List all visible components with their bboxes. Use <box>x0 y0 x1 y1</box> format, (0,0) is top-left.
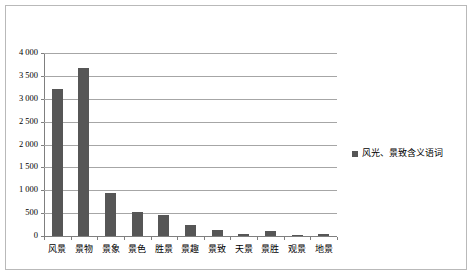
x-axis-tick-label: 景色 <box>124 243 151 255</box>
x-axis-tick-label: 天景 <box>230 243 257 255</box>
gridline <box>44 236 337 237</box>
bar <box>212 230 223 236</box>
x-axis-tick-mark <box>204 237 205 240</box>
y-axis-tick-label: 0 <box>0 231 41 240</box>
x-axis-tick-label: 景物 <box>71 243 98 255</box>
y-axis-tick-label: 1 500 <box>0 162 41 171</box>
x-axis-tick-mark <box>337 237 338 240</box>
y-axis-tick-label: 500 <box>0 208 41 217</box>
bar <box>185 225 196 236</box>
y-axis-tick-label: 3 000 <box>0 94 41 103</box>
x-axis-tick-label: 风景 <box>44 243 71 255</box>
bar <box>292 235 303 236</box>
x-axis-tick-mark <box>177 237 178 240</box>
bar <box>318 234 329 236</box>
chart-figure: 05001 0001 5002 0002 5003 0003 5004 000 … <box>0 0 472 275</box>
bar <box>238 234 249 236</box>
bar <box>158 215 169 236</box>
x-axis-tick-label: 景致 <box>204 243 231 255</box>
legend-swatch-icon <box>352 151 358 157</box>
bar <box>105 193 116 236</box>
x-axis-tick-mark <box>71 237 72 240</box>
bar <box>52 89 63 236</box>
x-axis-tick-label: 胜景 <box>151 243 178 255</box>
x-axis-tick-label: 景胜 <box>257 243 284 255</box>
y-axis-tick-label: 4 000 <box>0 48 41 57</box>
x-axis-tick-label: 景象 <box>97 243 124 255</box>
plot-area <box>44 53 337 236</box>
x-axis-tick-label: 观景 <box>284 243 311 255</box>
x-axis-tick-label: 地景 <box>310 243 337 255</box>
x-axis-tick-mark <box>44 237 45 240</box>
y-axis-tick-label: 2 500 <box>0 117 41 126</box>
gridline <box>44 53 337 54</box>
bar <box>78 68 89 236</box>
x-axis-tick-mark <box>151 237 152 240</box>
x-axis-tick-mark <box>230 237 231 240</box>
legend-label: 风光、景致含义语词 <box>362 148 443 159</box>
x-axis-tick-mark <box>284 237 285 240</box>
x-axis-tick-mark <box>310 237 311 240</box>
y-axis-tick-label: 2 000 <box>0 140 41 149</box>
chart-legend: 风光、景致含义语词 <box>352 148 443 159</box>
x-axis-tick-mark <box>257 237 258 240</box>
x-axis-tick-mark <box>97 237 98 240</box>
bar <box>265 231 276 236</box>
y-axis-tick-label: 3 500 <box>0 71 41 80</box>
y-axis-tick-label: 1 000 <box>0 185 41 194</box>
x-axis-tick-mark <box>124 237 125 240</box>
x-axis-tick-label: 景趣 <box>177 243 204 255</box>
bar <box>132 212 143 236</box>
